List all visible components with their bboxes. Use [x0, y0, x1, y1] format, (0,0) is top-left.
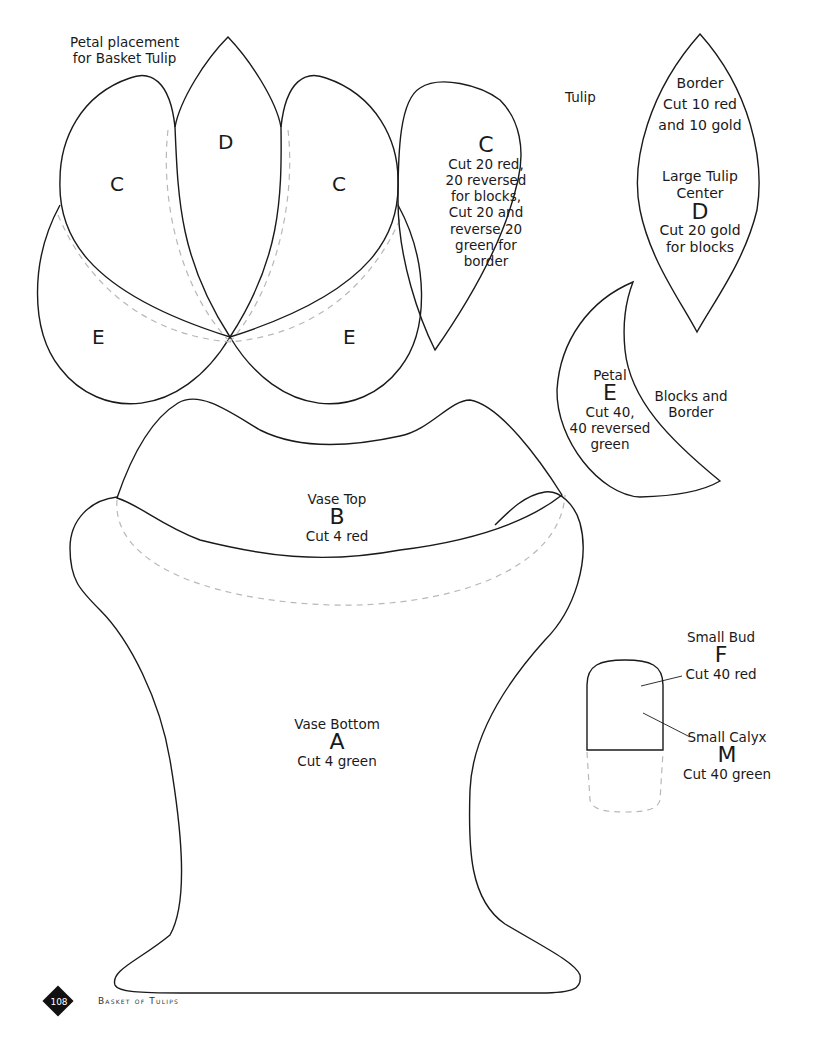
petal-e-left-shape: [38, 205, 231, 404]
tulip-c-line: 20 reversed: [446, 172, 527, 188]
small-calyx-letter: M: [683, 745, 771, 766]
small-bud-cut: Cut 40 red: [685, 666, 756, 682]
cut-line: for blocks: [659, 239, 740, 256]
side-line: Blocks and: [654, 388, 727, 404]
tulip-c-line: reverse 20: [446, 221, 527, 237]
petal-d-center-shape: [175, 37, 281, 337]
border-label: Border Cut 10 red and 10 gold: [658, 73, 741, 136]
placement-caption: Petal placement for Basket Tulip: [70, 34, 179, 66]
running-footer-title: Basket of Tulips: [98, 996, 179, 1006]
letter-c-left: C: [110, 172, 124, 196]
border-line: Border: [658, 73, 741, 94]
small-bud-shape: [587, 660, 663, 750]
petal-e-line: Cut 40,: [570, 404, 651, 420]
large-tulip-center-label: Large Tulip Center D Cut 20 gold for blo…: [659, 168, 740, 256]
caption-line-2: for Basket Tulip: [70, 50, 179, 66]
caption-line-1: Petal placement: [70, 34, 179, 50]
letter-d-center: D: [218, 130, 233, 154]
tulip-c-line: Cut 20 red,: [446, 156, 527, 172]
petal-e-line: green: [570, 436, 651, 452]
page-number-badge: 108: [44, 987, 74, 1017]
tulip-c-line: Cut 20 and: [446, 204, 527, 220]
small-calyx-cut: Cut 40 green: [683, 766, 771, 782]
petal-e-line: 40 reversed: [570, 420, 651, 436]
page-number: 108: [44, 987, 74, 1017]
vase-top-cut: Cut 4 red: [306, 528, 369, 544]
tulip-c-line: for blocks,: [446, 188, 527, 204]
letter-e-left: E: [92, 325, 105, 349]
petal-c-right-shape: [230, 76, 398, 337]
small-bud-label: Small Bud F Cut 40 red: [685, 629, 756, 682]
vase-top-label: Vase Top B Cut 4 red: [306, 491, 369, 544]
pattern-shapes: [0, 0, 816, 1058]
tulip-c-line: green for: [446, 237, 527, 253]
side-line: Border: [654, 404, 727, 420]
border-line: and 10 gold: [658, 115, 741, 136]
petal-e-letter: E: [570, 383, 651, 404]
border-d-letter: D: [659, 202, 740, 223]
letter-c-right: C: [332, 172, 346, 196]
tulip-c-label: C Cut 20 red, 20 reversed for blocks, Cu…: [446, 135, 527, 269]
center-line: Large Tulip: [659, 168, 740, 185]
small-bud-letter: F: [685, 645, 756, 666]
tulip-tag: Tulip: [565, 89, 596, 105]
border-line: Cut 10 red: [658, 94, 741, 115]
cut-line: Cut 20 gold: [659, 222, 740, 239]
tulip-c-letter: C: [446, 135, 527, 156]
vase-top-letter: B: [306, 507, 369, 528]
petal-e-label: Petal E Cut 40, 40 reversed green: [570, 367, 651, 453]
vase-bottom-cut: Cut 4 green: [294, 753, 380, 769]
letter-e-right: E: [343, 325, 356, 349]
small-calyx-label: Small Calyx M Cut 40 green: [683, 729, 771, 782]
tulip-c-line: border: [446, 253, 527, 269]
vase-bottom-label: Vase Bottom A Cut 4 green: [294, 716, 380, 769]
petal-c-left-shape: [60, 76, 230, 337]
vase-bottom-letter: A: [294, 732, 380, 753]
petal-e-side-label: Blocks and Border: [654, 388, 727, 420]
